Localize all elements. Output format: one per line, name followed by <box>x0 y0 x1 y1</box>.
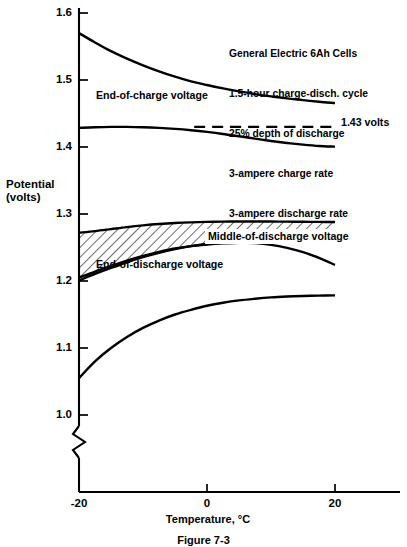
annotation-line-3: 25% depth of discharge <box>229 127 368 140</box>
label-1-43-volts: 1.43 volts <box>341 116 389 129</box>
y-tick-label: 1.1 <box>38 341 72 355</box>
y-axis-title-line1: Potential <box>6 178 55 192</box>
annotation-line-1: General Electric 6Ah Cells <box>229 47 368 60</box>
y-tick-label: 1.0 <box>38 408 72 422</box>
label-end-of-discharge-voltage: End-of-discharge voltage <box>96 258 223 271</box>
y-tick-label: 1.2 <box>38 274 72 288</box>
y-tick-label: 1.6 <box>38 6 72 20</box>
annotation-line-5: 3-ampere discharge rate <box>229 207 368 220</box>
annotation-block: General Electric 6Ah Cells 1.5-hour char… <box>229 20 368 247</box>
curve <box>79 295 335 378</box>
y-tick-label: 1.4 <box>38 140 72 154</box>
x-axis-ticks <box>207 484 335 492</box>
x-tick-label: -20 <box>59 497 99 511</box>
x-axis-title: Temperature, °C <box>128 513 288 526</box>
y-tick-label: 1.5 <box>38 73 72 87</box>
x-tick-label: 0 <box>187 497 227 511</box>
annotation-line-2: 1.5-hour charge-disch. cycle <box>229 87 368 100</box>
label-end-of-charge-voltage: End-of-charge voltage <box>96 89 208 102</box>
figure-caption: Figure 7-3 <box>0 534 407 547</box>
label-middle-of-discharge-voltage: Middle-of-discharge voltage <box>205 229 352 244</box>
y-tick-label: 1.3 <box>38 207 72 221</box>
axis-break-zigzag-icon <box>73 426 85 458</box>
x-tick-label: 20 <box>315 497 355 511</box>
y-axis-ticks <box>79 13 88 415</box>
y-axis-title-line2: (volts) <box>6 191 41 205</box>
annotation-line-4: 3-ampere charge rate <box>229 167 368 180</box>
